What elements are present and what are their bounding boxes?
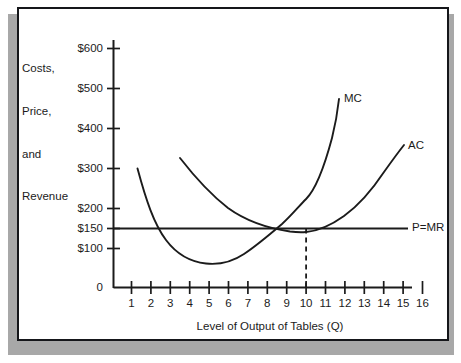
y-tick-label-600: $600 (58, 42, 103, 56)
mc-curve-label: MC (344, 92, 362, 106)
x-tick-label-13: 13 (354, 297, 374, 311)
mc-curve (138, 99, 340, 264)
x-tick-label-7: 7 (238, 297, 258, 311)
x-axis-caption: Level of Output of Tables (Q) (140, 320, 400, 334)
y-axis-caption-line-1: Costs, (22, 61, 68, 75)
x-tick-label-14: 14 (374, 297, 394, 311)
y-axis-caption-line-3: and (22, 147, 68, 161)
y-tick-label-0: 0 (58, 281, 103, 295)
x-tick-label-5: 5 (199, 297, 219, 311)
y-axis-caption-line-2: Price, (22, 104, 68, 118)
p-equals-mr-label: P=MR (412, 221, 444, 235)
figure-root: Costs, Price, and Revenue $600 $500 $400… (0, 0, 461, 363)
y-tick-label-400: $400 (58, 122, 103, 136)
x-tick-label-3: 3 (160, 297, 180, 311)
y-tick-label-500: $500 (58, 82, 103, 96)
y-tick-label-100: $100 (58, 242, 103, 256)
y-tick-label-200: $200 (58, 202, 103, 216)
x-tick-label-4: 4 (180, 297, 200, 311)
x-tick-label-9: 9 (277, 297, 297, 311)
x-tick-label-8: 8 (257, 297, 277, 311)
x-tick-label-15: 15 (393, 297, 413, 311)
x-tick-label-2: 2 (141, 297, 161, 311)
x-tick-label-1: 1 (122, 297, 142, 311)
x-tick-label-10: 10 (296, 297, 316, 311)
ac-curve-label: AC (408, 139, 424, 153)
x-tick-label-11: 11 (316, 297, 336, 311)
y-tick-label-150: $150 (58, 222, 103, 236)
x-tick-label-16: 16 (413, 297, 433, 311)
ac-curve (180, 145, 404, 232)
y-tick-label-300: $300 (58, 162, 103, 176)
x-tick-label-12: 12 (335, 297, 355, 311)
x-tick-label-6: 6 (219, 297, 239, 311)
